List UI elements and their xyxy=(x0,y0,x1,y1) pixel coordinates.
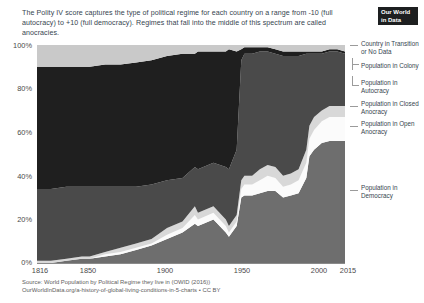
xtick-label-2000: 2000 xyxy=(303,266,335,275)
ytick-label-60: 60% xyxy=(0,128,32,137)
stacked-area-plot xyxy=(37,45,345,263)
legend-rule-democracy xyxy=(350,190,358,191)
xtick-label-1900: 1900 xyxy=(149,266,181,275)
legend-rule-autocracy xyxy=(352,85,359,86)
ytick-label-40: 40% xyxy=(0,172,32,181)
legend-label-transition[interactable]: Country in Transition or No Data xyxy=(361,40,421,55)
xtick-label-1850: 1850 xyxy=(72,266,104,275)
legend-label-open-anocracy[interactable]: Population in Open Anocracy xyxy=(361,120,421,135)
xtick-label-1816: 1816 xyxy=(24,266,56,275)
legend-label-colony[interactable]: Population in Colony xyxy=(361,62,421,70)
legend-rule-closed-anocracy xyxy=(350,106,358,107)
logo-line-2: in Data xyxy=(381,16,416,24)
xtick-label-2015: 2015 xyxy=(332,266,364,275)
plot-svg xyxy=(37,45,345,263)
source-note: Source: World Population by Political Re… xyxy=(22,278,342,294)
ytick-label-100: 100% xyxy=(0,41,32,50)
legend-rule-transition xyxy=(350,45,358,46)
logo-line-1: Our World xyxy=(381,8,416,16)
legend-rule-open-anocracy xyxy=(350,126,358,127)
chart-subtitle: The Polity IV score captures the type of… xyxy=(22,8,362,38)
our-world-in-data-logo[interactable]: Our World in Data xyxy=(378,7,418,25)
x-axis-line xyxy=(37,263,345,264)
legend-label-closed-anocracy[interactable]: Population in Closed Anocracy xyxy=(361,100,421,115)
source-line-1: Source: World Population by Political Re… xyxy=(22,278,342,286)
legend-label-autocracy[interactable]: Population in Autocracy xyxy=(361,79,421,94)
xtick-label-1950: 1950 xyxy=(226,266,258,275)
chart-screenshot: The Polity IV score captures the type of… xyxy=(0,0,424,303)
legend-brace-autocracy xyxy=(352,76,353,85)
legend-rule-colony xyxy=(352,64,359,65)
legend-label-democracy[interactable]: Population in Democracy xyxy=(361,184,421,199)
source-line-2[interactable]: OurWorldInData.org/a-history-of-global-l… xyxy=(22,286,342,294)
ytick-label-20: 20% xyxy=(0,215,32,224)
ytick-label-80: 80% xyxy=(0,84,32,93)
